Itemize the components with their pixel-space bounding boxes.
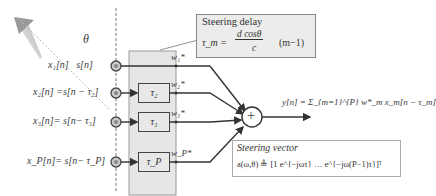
steering-delay-rhs: (m−1) (279, 37, 304, 48)
steering-delay-lhs: τ_m = (202, 37, 227, 48)
weight-label-p: w_P* (171, 148, 192, 158)
weight-label-3: w₃* (171, 108, 185, 118)
summer-plus-symbol: + (247, 108, 255, 124)
weight-label-2: w₂* (171, 79, 185, 89)
steering-delay-box: Steering delay τ_m = d cosθ c (m−1) (196, 14, 316, 58)
steering-vector-title: Steering vector (237, 142, 298, 153)
delay-block-2: τ₂ (138, 83, 170, 103)
steering-delay-den: c (252, 43, 256, 53)
signal-label-3: x₃[n]= s[n− τ₃] (33, 115, 96, 126)
delay-block-3: τ₃ (138, 112, 170, 132)
output-equation: y[n] = Σ_{m=1}^{P} w*_m x_m[n − τ_m] (282, 97, 436, 107)
angle-label: θ (83, 32, 89, 47)
steering-vector-box: Steering vector a(ω,θ) ≜ [1 e^{−jωτ} … e… (232, 140, 401, 177)
delay-block-p: τ_P (138, 152, 170, 172)
steering-delay-title: Steering delay (202, 16, 262, 27)
steering-vector-formula: a(ω,θ) ≜ [1 e^{−jωτ} … e^{−jω(P−1)τ}]ᵀ (237, 159, 382, 169)
signal-label-1: x₁[n] s[n] (48, 59, 93, 70)
signal-label-p: x_P[n]= s[n− τ_P] (27, 155, 105, 166)
steering-delay-num: d cosθ (235, 29, 263, 40)
weight-label-1: w₁* (171, 52, 185, 62)
signal-label-2: x₂[n] =s[n − τ₂] (33, 86, 98, 97)
